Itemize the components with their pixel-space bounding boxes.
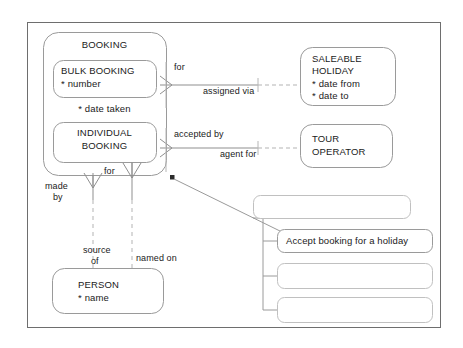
entity-bulk-booking-attribute-number: * number xyxy=(61,78,156,91)
entity-booking-attribute-date-taken: * date taken xyxy=(43,103,166,116)
relationship-label-agent-for: agent for xyxy=(220,149,256,160)
relationship-label-made-by-line1: made xyxy=(45,181,68,192)
entity-bulk-booking-name: BULK BOOKING xyxy=(61,65,156,78)
entity-tour-operator-name-line2: OPERATOR xyxy=(312,146,392,159)
entity-tour-operator-name-line1: TOUR xyxy=(312,133,392,146)
callout-anchor-marker xyxy=(170,175,175,180)
callout-box-1[interactable] xyxy=(254,196,411,219)
relationship-label-made-by-line2: by xyxy=(53,192,63,203)
entity-saleable-holiday-attribute-date-to: * date to xyxy=(312,90,394,103)
relationship-label-source-of-line1: source xyxy=(83,245,111,256)
relationship-label-assigned-via: assigned via xyxy=(203,86,254,97)
er-diagram-canvas: BOOKING BULK BOOKING * number * date tak… xyxy=(0,0,463,348)
relationship-label-for-saleable-holiday: for xyxy=(174,62,185,73)
entity-booking-name: BOOKING xyxy=(43,39,166,52)
entity-saleable-holiday-name-line2: HOLIDAY xyxy=(312,65,394,78)
entity-individual-booking-name-line1: INDIVIDUALBOOKING xyxy=(53,127,156,152)
callout-2-text: Accept booking for a holiday xyxy=(286,235,426,247)
relationship-label-named-on: named on xyxy=(136,253,177,264)
callout-box-3[interactable] xyxy=(278,264,433,289)
relationship-label-for-person: for xyxy=(104,166,115,177)
relationship-label-source-of-line2: of xyxy=(91,256,99,267)
entity-person-name: PERSON xyxy=(78,279,163,292)
entity-saleable-holiday-name-line1: SALEABLE xyxy=(312,53,394,66)
entity-saleable-holiday-attribute-date-from: * date from xyxy=(312,78,394,91)
entity-person-attribute-name: * name xyxy=(78,292,163,305)
callout-box-4[interactable] xyxy=(278,298,433,323)
relationship-label-accepted-by: accepted by xyxy=(174,129,224,140)
